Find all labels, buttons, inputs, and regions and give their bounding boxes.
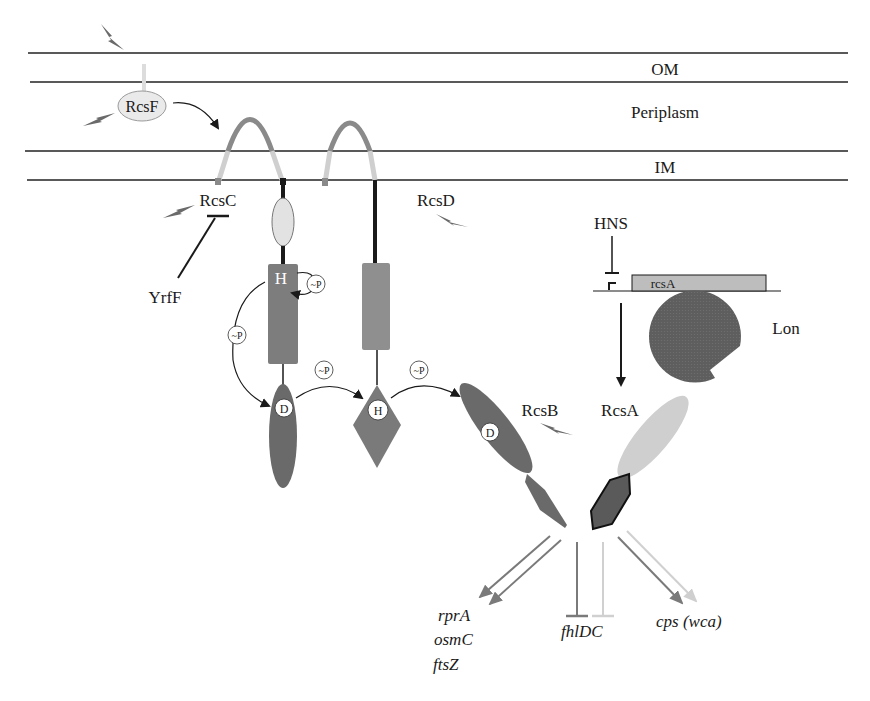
target-gene-rpra: rprA: [438, 606, 471, 625]
target-gene-osmc: osmC: [434, 630, 473, 649]
rcsd-protein: H: [353, 180, 401, 468]
activation-arrow: [490, 540, 561, 604]
svg-text:~P: ~P: [319, 365, 330, 376]
rcsc-asp-label: D: [280, 402, 289, 416]
promoter-arrow-icon: [609, 283, 616, 290]
rcsd-kinase-like-domain: [362, 263, 390, 350]
yrff-label: YrfF: [148, 288, 181, 307]
rcsd-periplasmic-loop: [322, 123, 375, 186]
rcsc-to-rcsd-transfer-arrow: [296, 387, 362, 399]
stress-bolt-icon: [101, 24, 124, 50]
phosphate-badge: ~P: [307, 275, 325, 293]
activation-arrow: [480, 536, 550, 597]
lon-protease: [649, 291, 741, 383]
rcsc-periplasmic-loop: [215, 120, 286, 186]
periplasm-label: Periplasm: [631, 103, 699, 122]
rcsc-hamp-domain: [272, 198, 294, 246]
svg-text:~P: ~P: [232, 330, 243, 341]
hns-label: HNS: [594, 214, 628, 233]
target-gene-ftsz: ftsZ: [433, 655, 459, 674]
stress-bolt-icon: [540, 423, 573, 435]
target-gene-cps: cps (wca): [656, 612, 722, 631]
rcsc-protein: H D: [268, 180, 298, 488]
target-regulation: [480, 531, 696, 616]
svg-text:~P: ~P: [311, 279, 322, 290]
target-genes-left: rprA osmC ftsZ: [433, 606, 473, 674]
rcsb-dna-binding-domain: [525, 474, 567, 528]
om-label: OM: [651, 60, 678, 79]
rcsd-label: RcsD: [417, 191, 455, 210]
lon-pacman-shape: [649, 291, 741, 383]
im-label: IM: [655, 158, 676, 177]
rcsa-gene: rcsA: [593, 275, 781, 291]
rcsc-his-label: H: [275, 269, 287, 288]
activation-arrow: [627, 531, 696, 601]
rcsb-asp-label: D: [486, 426, 495, 440]
phosphate-badge: ~P: [228, 326, 246, 344]
rcsc-label: RcsC: [200, 191, 237, 210]
rcsb-protein: D: [450, 375, 567, 528]
svg-text:~P: ~P: [414, 365, 425, 376]
rcsf-to-rcsc-arrow: [173, 103, 218, 128]
stress-bolt-icon: [436, 214, 468, 227]
hns-repression: [605, 236, 619, 273]
rcsa-label: RcsA: [601, 401, 640, 420]
yrff-inhibition: [178, 216, 229, 278]
rcsb-label: RcsB: [522, 401, 559, 420]
rcsd-his-label: H: [374, 404, 383, 418]
lon-label: Lon: [772, 319, 800, 338]
phosphate-badge: ~P: [315, 361, 333, 379]
stress-bolt-icon: [83, 113, 115, 126]
rcs-pathway-diagram: OM Periplasm IM RcsF H: [0, 0, 870, 701]
stress-bolt-icon: [163, 205, 195, 218]
phosphate-badge: ~P: [410, 361, 428, 379]
rcsa-dna-binding-domain: [591, 474, 630, 529]
rcsf-protein: RcsF: [118, 64, 166, 121]
activation-arrow: [618, 537, 682, 603]
rcsf-label: RcsF: [126, 98, 159, 115]
target-gene-fhldc: fhlDC: [561, 622, 603, 641]
rcsd-to-rcsb-transfer-arrow: [391, 386, 459, 398]
rcsa-gene-label: rcsA: [651, 276, 676, 291]
